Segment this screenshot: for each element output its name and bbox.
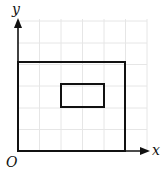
x-axis-label: x [152,142,160,158]
coordinate-diagram: y x O [0,0,162,174]
origin-label: O [6,154,18,170]
x-axis-arrow-icon [140,147,150,155]
y-axis-arrow-icon [14,18,22,28]
y-axis-label: y [11,1,21,17]
